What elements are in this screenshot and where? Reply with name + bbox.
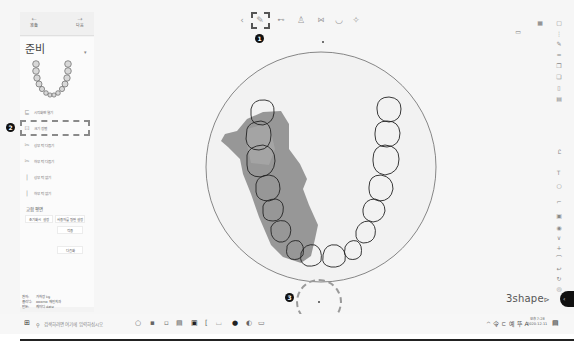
paste-icon[interactable]: ❏	[555, 73, 563, 81]
section-title: 준비	[25, 40, 45, 56]
notification-icon[interactable]: ▤	[552, 319, 559, 328]
orientation-circle	[206, 52, 436, 282]
pen-icon[interactable]: ✎	[555, 40, 563, 48]
menu-item-trim-upper[interactable]: ✂ 상부 턱 다듬기	[24, 140, 90, 150]
lower-jaw-icon: ❘	[24, 190, 30, 196]
align-icon: ⊡	[24, 125, 30, 131]
undo-icon[interactable]: ⌒	[555, 254, 563, 262]
app-icon-5[interactable]: [	[205, 319, 208, 328]
left-tabs: ⇠ 准备 ⇢ 다음	[20, 12, 94, 36]
dots-icon[interactable]: ⋮	[555, 30, 563, 38]
lower-icon[interactable]: ⋈	[315, 14, 327, 26]
lock-icon[interactable]: ◎	[555, 285, 563, 293]
app-window: ⇠ 准备 ⇢ 다음 준비 ▾ ⊑ 시작화면 열기 2 ⊡ 크기 정렬 ✂	[0, 0, 574, 334]
app-icon-2[interactable]: ▫	[164, 319, 169, 328]
back-icon[interactable]: ‹	[236, 14, 248, 26]
task-view-icon[interactable]: ○	[135, 319, 141, 328]
refresh-icon[interactable]: ↻	[555, 275, 563, 283]
menu-item-upper-jaw[interactable]: ❘ 상부 턱 없기	[24, 172, 90, 182]
search-icon: ⚲	[36, 321, 40, 330]
callout-1: 1	[255, 34, 264, 43]
layers-icon[interactable]: ◉	[555, 224, 563, 232]
menu-item-align[interactable]: ⊡ 크기 정렬	[24, 123, 90, 133]
app-icon-3[interactable]: ▤	[176, 319, 183, 328]
app-icon-1[interactable]: ▪	[150, 319, 155, 328]
crop-icon[interactable]: ⌐	[555, 198, 563, 206]
text-icon[interactable]: Ꭲ	[555, 169, 563, 177]
windows-taskbar: ⊞ ⚲ 검색하려면 여기에 입력하십시오 ○ ▪ ▫ ▤ ▣ [ ⌴ ● ◐ ▭…	[0, 314, 574, 334]
divider	[20, 339, 574, 341]
tab-back[interactable]: ⇠ 准备	[22, 15, 46, 28]
taskbar-search-input[interactable]: 검색하려면 여기에 입력하십시오	[44, 321, 103, 327]
menu-item-lower-jaw[interactable]: ❘ 하부 턱 없기	[24, 188, 90, 198]
next-button[interactable]: 다음화	[57, 246, 83, 254]
menu-item-open[interactable]: ⊑ 시작화면 열기	[24, 107, 90, 117]
scan-tool-icon[interactable]: ✎	[254, 14, 266, 26]
window-icon[interactable]: ▢	[555, 19, 563, 27]
upper-jaw-icon: ❘	[24, 174, 30, 180]
rotation-handle-top[interactable]	[322, 41, 324, 43]
ruler-icon[interactable]: ═	[555, 51, 563, 59]
app-icon-7[interactable]: ●	[232, 319, 238, 328]
forward-icon: ⇢	[68, 15, 92, 22]
app-icon-8[interactable]: ▭	[258, 319, 265, 328]
upper-icon[interactable]: ♙	[295, 14, 307, 26]
tab-next[interactable]: ⇢ 다음	[68, 15, 92, 28]
brand-logo: 3shape⊳	[506, 293, 550, 304]
arch-thumbnail[interactable]	[30, 58, 74, 100]
occlusal-plane-heading: 교합 평면	[26, 206, 43, 212]
redo-icon[interactable]: ↩	[555, 265, 563, 273]
app-icon-4[interactable]: ▣	[191, 319, 198, 328]
chevron-down-icon[interactable]: ▾	[84, 49, 87, 55]
scan-icon: ⊑	[24, 109, 30, 115]
taskbar-clock[interactable]: 오후 7:28 2020-12-11	[527, 317, 547, 327]
callout-2: 2	[6, 123, 15, 132]
trim-upper-icon: ✂	[24, 142, 30, 148]
menu-item-trim-lower[interactable]: ✂ 하부 턱 다듬기	[24, 156, 90, 166]
callout-3: 3	[285, 293, 294, 302]
app-icon-6[interactable]: ⌴	[216, 319, 222, 328]
copy-icon[interactable]: ❐	[555, 62, 563, 70]
file2-icon[interactable]: ▤	[555, 95, 563, 103]
rotate-icon[interactable]: ◡	[333, 14, 345, 26]
bite-icon[interactable]: ⊷	[275, 14, 287, 26]
windows-start-icon[interactable]: ⊞	[24, 319, 30, 328]
3d-viewport[interactable]	[203, 49, 439, 285]
reset-plane-button[interactable]: 초기화시 설정	[25, 215, 53, 223]
comment-icon[interactable]: ▭	[514, 28, 522, 36]
back-icon: ⇠	[22, 15, 46, 22]
measure-icon[interactable]: Ꮭ	[555, 148, 563, 156]
grid-icon[interactable]: ▦	[536, 19, 544, 27]
palette-icon[interactable]: ▣	[555, 212, 563, 220]
settings-icon[interactable]: ✧	[350, 14, 362, 26]
trim-lower-icon: ✂	[24, 158, 30, 164]
collapse-panel-handle[interactable]: ‹	[560, 291, 574, 307]
chevron-down-icon[interactable]: ∨	[555, 234, 563, 242]
custom-plane-button[interactable]: 사용자를 평면 설정	[55, 215, 85, 223]
created-info: 만든:케이디 date	[22, 304, 54, 309]
system-tray[interactable]: ^ 令 ㄷ 예 뚜 A	[486, 319, 529, 328]
file-icon[interactable]: ▯	[555, 84, 563, 92]
circle-icon[interactable]: ○	[555, 182, 563, 190]
plus-icon[interactable]: +	[555, 244, 563, 252]
apply-button[interactable]: 적용	[57, 226, 83, 234]
rotation-handle-bottom[interactable]	[318, 301, 320, 303]
browser-icon[interactable]: ◐	[246, 319, 252, 328]
